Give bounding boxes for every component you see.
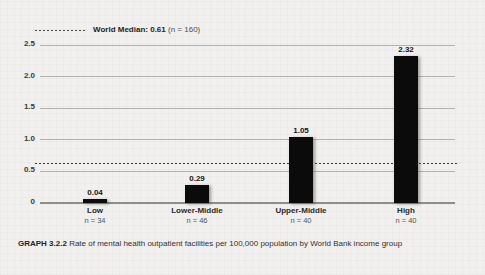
bar-value-label: 2.32	[386, 45, 426, 54]
category-label-lower-middle: Lower-Middlen = 46	[152, 206, 242, 226]
category-name: Lower-Middle	[152, 206, 242, 216]
category-n-count: n = 40	[256, 216, 346, 226]
graph-caption-tag: GRAPH 3.2.2	[18, 239, 67, 248]
bar-lower-middle	[185, 185, 209, 203]
category-n-count: n = 46	[152, 216, 242, 226]
category-name: Low	[50, 206, 140, 216]
gridline	[40, 139, 455, 140]
legend-label: World Median: 0.61 (n = 160)	[93, 25, 200, 35]
gridline	[40, 171, 455, 172]
category-n-count: n = 34	[50, 216, 140, 226]
bar-high	[394, 56, 418, 203]
category-name: Upper-Middle	[256, 206, 346, 216]
category-label-upper-middle: Upper-Middlen = 40	[256, 206, 346, 226]
legend-label-bold: World Median: 0.61	[93, 25, 166, 34]
scanned-chart-page: World Median: 0.61 (n = 160) 00.51.01.52…	[0, 0, 485, 275]
y-axis-tick-label: 0.5	[13, 165, 35, 175]
legend-label-n: (n = 160)	[168, 25, 200, 34]
dotted-line-swatch	[35, 30, 85, 31]
category-n-count: n = 40	[361, 216, 451, 226]
gridline	[40, 108, 455, 109]
graph-caption: GRAPH 3.2.2 Rate of mental health outpat…	[18, 239, 468, 249]
y-axis-tick-label: 0	[13, 197, 35, 207]
y-axis-tick-label: 2.5	[13, 39, 35, 49]
bar-chart-plot-area: 00.51.01.52.02.50.040.291.052.32	[40, 45, 455, 203]
y-axis-tick-label: 1.0	[13, 134, 35, 144]
graph-caption-text: Rate of mental health outpatient facilit…	[69, 239, 402, 248]
y-axis-tick-label: 1.5	[13, 102, 35, 112]
world-median-legend: World Median: 0.61 (n = 160)	[35, 25, 200, 35]
category-name: High	[361, 206, 451, 216]
bar-value-label: 1.05	[281, 126, 321, 135]
bar-low	[83, 199, 107, 203]
bar-upper-middle	[289, 137, 313, 203]
bar-value-label: 0.04	[75, 188, 115, 197]
bar-value-label: 0.29	[177, 174, 217, 183]
y-axis-tick-label: 2.0	[13, 71, 35, 81]
gridline	[40, 76, 455, 77]
x-axis-category-labels: Lown = 34Lower-Middlen = 46Upper-Middlen…	[40, 206, 455, 230]
category-label-high: Highn = 40	[361, 206, 451, 226]
category-label-low: Lown = 34	[50, 206, 140, 226]
